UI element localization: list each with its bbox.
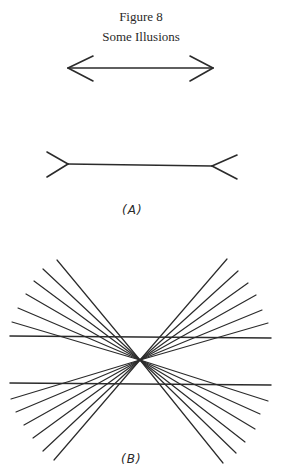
- right-arrowhead-lower: [190, 68, 213, 81]
- panel-label-b: (B): [121, 452, 142, 466]
- lower-horizontal-line: [10, 383, 271, 385]
- ray-lower-right-5: [140, 360, 236, 453]
- right-fin-upper: [212, 155, 237, 166]
- ray-upper-left-2: [43, 269, 140, 360]
- ray-lower-left-5: [43, 360, 140, 451]
- arrow-inward-heads: [68, 56, 213, 81]
- right-arrowhead-upper: [190, 56, 213, 68]
- left-fin-upper: [47, 152, 68, 164]
- right-fin-lower: [212, 166, 237, 179]
- upper-horizontal-line: [10, 336, 271, 338]
- fin-shaft: [68, 164, 212, 166]
- ray-upper-left-4: [26, 294, 140, 360]
- ray-lower-right-6: [140, 360, 223, 463]
- ray-upper-right-4: [140, 295, 256, 360]
- ray-upper-right-3: [140, 283, 248, 360]
- panel-label-a: (A): [122, 203, 143, 217]
- ray-lower-right-4: [140, 360, 245, 442]
- ray-lower-right-1: [140, 360, 268, 401]
- ray-lower-left-4: [33, 360, 140, 438]
- ray-lower-left-6: [54, 360, 140, 460]
- arrow-outward-fins: [47, 152, 237, 179]
- ray-upper-right-1: [140, 259, 227, 360]
- ray-upper-right-5: [140, 310, 262, 360]
- ray-upper-left-5: [18, 308, 140, 360]
- panel-a-drawing: [47, 56, 237, 179]
- radiating-rays: [11, 259, 268, 463]
- ray-upper-left-6: [12, 322, 140, 360]
- ray-lower-right-3: [140, 360, 255, 429]
- illustrations: [0, 0, 282, 474]
- ray-lower-left-1: [11, 360, 140, 399]
- ray-lower-right-2: [140, 360, 260, 414]
- left-fin-lower: [47, 164, 68, 177]
- ray-upper-left-3: [34, 281, 140, 360]
- ray-lower-left-2: [16, 360, 140, 412]
- left-arrowhead-lower: [68, 68, 93, 81]
- ray-upper-right-6: [140, 323, 268, 360]
- ray-upper-right-2: [140, 271, 238, 360]
- ray-upper-left-1: [57, 260, 140, 360]
- panel-b-drawing: [10, 259, 271, 463]
- left-arrowhead-upper: [68, 56, 93, 68]
- ray-lower-left-3: [24, 360, 140, 425]
